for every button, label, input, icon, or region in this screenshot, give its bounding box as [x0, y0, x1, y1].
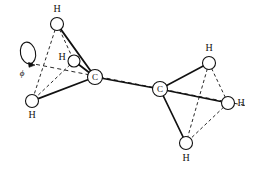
bond-c2-h4: [166, 66, 204, 86]
atom-label-h4: H: [205, 43, 212, 53]
atom-label-c2: C: [157, 85, 163, 94]
molecule-canvas: [0, 0, 256, 173]
atom-label-h1: H: [53, 4, 60, 14]
molecule-figure: CCHHHHHH ϕ: [0, 0, 256, 173]
bond-c2-h5: [167, 90, 222, 101]
edge-h4-h6: [188, 69, 208, 137]
edge-h4-h5: [212, 68, 226, 97]
atom-label-h3: H: [28, 110, 35, 120]
atom-h4: [203, 57, 216, 70]
atom-label-h6: H: [182, 153, 189, 163]
atom-h2: [68, 55, 80, 67]
bonds-layer: [38, 29, 223, 138]
atom-h6: [180, 137, 193, 150]
atom-label-h2: H: [58, 52, 65, 62]
atom-h5: [222, 97, 235, 110]
carbon-carbon-bond: [102, 78, 153, 87]
atom-h3: [26, 95, 39, 108]
edge-h5-h6: [190, 107, 223, 139]
edge-h1-h3: [34, 30, 55, 96]
rotation-marker-layer: [18, 41, 37, 68]
bond-c1-h3: [38, 79, 89, 98]
atom-h1: [51, 18, 64, 31]
phi-angle-label: ϕ: [20, 68, 25, 78]
bond-c2-h6: [163, 95, 183, 137]
rotation-ellipse: [18, 41, 37, 66]
atom-label-h5: H: [237, 98, 244, 108]
atom-label-c1: C: [92, 73, 98, 82]
